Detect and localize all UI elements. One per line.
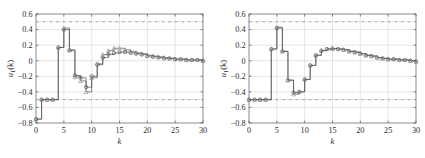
y-tick-label: −0.6 (18, 103, 33, 112)
y-tick-label: −0.8 (18, 119, 33, 128)
y-tick-label: 0.2 (235, 41, 245, 50)
y-tick-label: −0.2 (230, 72, 245, 81)
x-tick-label: 5 (62, 126, 66, 135)
x-tick-label: 20 (143, 126, 151, 135)
x-tick-label: 0 (246, 126, 250, 135)
tick-labels-group: 051015202530−0.8−0.6−0.4−0.200.20.40.6 (230, 10, 419, 135)
y-tick-label: −0.6 (230, 103, 245, 112)
x-tick-label: 20 (356, 126, 364, 135)
chart-panel-right: 051015202530−0.8−0.6−0.4−0.200.20.40.6ku… (213, 0, 425, 158)
y-tick-label: 0 (28, 57, 32, 66)
y-tick-label: 0.6 (22, 10, 32, 19)
y-axis-title-argument: (k) (218, 60, 228, 70)
two-panel-figure: 051015202530−0.8−0.6−0.4−0.200.20.40.6ku… (0, 0, 425, 158)
chart-panel-left: 051015202530−0.8−0.6−0.4−0.200.20.40.6ku… (0, 0, 213, 158)
x-axis-title: k (330, 136, 334, 146)
x-tick-label: 5 (274, 126, 278, 135)
y-tick-label: −0.2 (18, 72, 33, 81)
y-axis-title: u1(k) (5, 60, 16, 78)
right-plot-svg: 051015202530−0.8−0.6−0.4−0.200.20.40.6ku… (213, 0, 425, 158)
x-tick-label: 30 (411, 126, 419, 135)
y-tick-label: −0.8 (230, 119, 245, 128)
y-tick-label: 0 (241, 57, 245, 66)
tick-labels-group: 051015202530−0.8−0.6−0.4−0.200.20.40.6 (18, 10, 207, 135)
y-tick-label: 0.4 (22, 25, 32, 34)
x-tick-label: 15 (328, 126, 336, 135)
y-tick-label: 0.6 (235, 10, 245, 19)
grid-group (36, 14, 203, 123)
x-tick-label: 10 (300, 126, 308, 135)
x-tick-label: 15 (115, 126, 123, 135)
y-tick-label: 0.2 (22, 41, 32, 50)
x-tick-label: 30 (199, 126, 207, 135)
y-tick-label: −0.4 (230, 88, 245, 97)
grid-group (249, 14, 416, 123)
y-axis-title: u1(k) (218, 60, 229, 78)
y-tick-label: 0.4 (235, 25, 245, 34)
y-axis-title-argument: (k) (5, 60, 15, 70)
x-tick-label: 25 (171, 126, 179, 135)
y-tick-label: −0.4 (18, 88, 33, 97)
x-tick-label: 0 (34, 126, 38, 135)
left-plot-svg: 051015202530−0.8−0.6−0.4−0.200.20.40.6ku… (0, 0, 213, 158)
x-axis-title: k (118, 136, 122, 146)
x-tick-label: 25 (384, 126, 392, 135)
x-tick-label: 10 (88, 126, 96, 135)
